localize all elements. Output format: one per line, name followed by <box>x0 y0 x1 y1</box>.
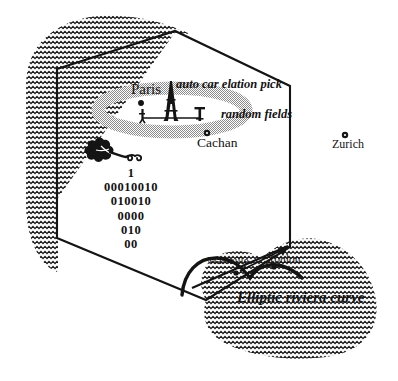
field-marker-right <box>195 107 206 121</box>
binary-line: 00 <box>77 237 185 251</box>
binary-line: 010010 <box>77 194 185 208</box>
city-dot-marseille[interactable] <box>233 270 238 275</box>
binary-line: 1 <box>77 166 185 180</box>
annotation-elliptic-riviera-curve: Elliptic riviera curve <box>237 290 364 305</box>
binary-digit-block: 1 00010010 010010 0000 010 00 <box>77 166 185 251</box>
city-label-toulon: Toulon <box>268 254 300 266</box>
annotation-auto-car: auto car elation pick <box>176 78 282 91</box>
city-label-cachan: Cachan <box>197 136 237 150</box>
binary-line: 010 <box>77 223 185 237</box>
binary-line: 00010010 <box>77 180 185 194</box>
city-label-zurich: Zurich <box>332 138 364 150</box>
figure-canvas: Paris Cachan Zurich Marseille Toulon aut… <box>0 0 398 381</box>
city-label-marseille: Marseille <box>207 255 249 266</box>
annotation-random-fields: random fields <box>221 108 292 121</box>
binary-line: 0000 <box>77 209 185 223</box>
city-label-paris: Paris <box>131 82 161 97</box>
map-illustration <box>0 0 398 381</box>
